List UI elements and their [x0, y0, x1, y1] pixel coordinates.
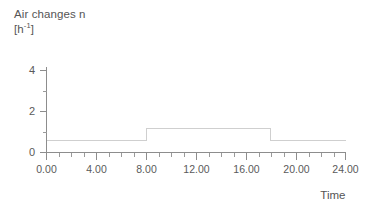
- x-axis-tick-labels: 0.00 4.00 8.00 12.00 16.00 20.00 24.00: [36, 163, 359, 175]
- air-changes-step-line: [47, 128, 346, 140]
- x-tick-label-16: 16.00: [233, 163, 259, 175]
- x-tick-label-4: 4.00: [86, 163, 107, 175]
- x-tick-label-20: 20.00: [283, 163, 309, 175]
- plot-area: 0 2 4: [0, 0, 369, 214]
- y-axis-major-ticks: [40, 71, 47, 153]
- air-changes-chart: Air changes n [h-1] 0 2 4: [0, 0, 369, 214]
- y-tick-label-4: 4: [29, 64, 35, 76]
- x-tick-label-12: 12.00: [183, 163, 209, 175]
- y-tick-label-0: 0: [29, 146, 35, 158]
- y-tick-label-2: 2: [29, 105, 35, 117]
- x-axis-major-ticks: [47, 153, 346, 161]
- x-tick-label-0: 0.00: [36, 163, 57, 175]
- y-axis-tick-labels: 0 2 4: [29, 64, 35, 158]
- x-tick-label-8: 8.00: [136, 163, 157, 175]
- x-tick-label-24: 24.00: [332, 163, 358, 175]
- x-axis-title: Time: [320, 189, 345, 201]
